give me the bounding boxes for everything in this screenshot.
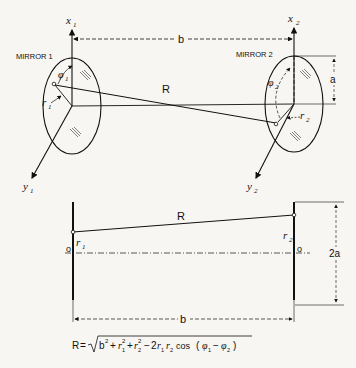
svg-text:2: 2 [296,19,300,27]
svg-text:b: b [178,33,184,45]
mirror-2: MIRROR 2 [236,50,323,152]
svg-text:2: 2 [170,347,173,353]
svg-text:y: y [22,180,28,192]
svg-text:x: x [287,12,293,24]
svg-text:1: 1 [30,187,34,195]
svg-text:r: r [76,236,81,248]
R-line-top: R [55,83,276,123]
spacing-b-top: b [74,33,292,45]
svg-text:o: o [66,244,71,254]
svg-text:2: 2 [306,116,310,124]
phi1-angle: φ 1 [58,66,72,84]
svg-text:y: y [246,180,252,192]
svg-text:R: R [162,83,170,95]
svg-text:1: 1 [208,347,211,353]
optical-axis [72,104,294,106]
radius-a-dimension: a [294,56,339,104]
svg-text:2: 2 [138,347,141,353]
svg-text:MIRROR 2: MIRROR 2 [236,50,273,59]
svg-text:MIRROR 1: MIRROR 1 [16,52,53,61]
svg-text:2: 2 [275,83,279,91]
svg-text:b: b [180,313,186,325]
svg-text:2: 2 [254,187,258,195]
phi2-angle: φ 2 [268,68,290,118]
y2-axis: y 2 [246,104,294,195]
svg-text:a: a [330,74,336,85]
svg-text:1: 1 [73,21,77,29]
r1-vector: r 1 [42,82,72,111]
svg-text:=: = [80,340,86,351]
svg-text:2: 2 [227,347,230,353]
svg-text:2a: 2a [329,248,341,259]
svg-text:R: R [72,340,79,351]
svg-text:2: 2 [289,236,293,244]
mirror-1: MIRROR 1 [16,52,101,154]
svg-text:): ) [233,340,236,351]
svg-text:r: r [42,96,47,108]
svg-text:−: − [213,340,219,351]
svg-text:r: r [283,229,288,241]
svg-text:−: − [144,340,150,351]
svg-text:+: + [110,340,116,351]
x2-axis: x 2 [287,12,300,104]
resonator-diagram: x 1 x 2 b MIRROR 1 [0,0,356,368]
svg-text:1: 1 [82,243,86,251]
y1-axis: y 1 [22,106,72,195]
figure-page: x 1 x 2 b MIRROR 1 [0,0,356,368]
x1-axis: x 1 [65,14,77,106]
side-view: o o R r 1 r 2 2a b [65,202,344,325]
svg-text:2: 2 [105,338,109,344]
formula-svg: R = b 2 + r 2 1 + r 2 2 − 2 r 1 r 2 cos … [72,333,272,355]
svg-text:x: x [65,14,71,26]
svg-text:o: o [297,244,302,254]
svg-text:(: ( [196,340,200,351]
svg-text:2: 2 [122,338,126,344]
svg-text:1: 1 [161,347,164,353]
svg-text:1: 1 [65,75,69,83]
svg-text:φ: φ [58,69,64,80]
svg-text:cos: cos [176,341,191,351]
svg-text:R: R [177,210,185,222]
svg-text:φ: φ [268,77,274,88]
svg-text:+: + [127,340,133,351]
svg-text:1: 1 [122,347,125,353]
svg-text:1: 1 [48,103,52,111]
svg-text:2: 2 [138,338,142,344]
svg-text:r: r [300,109,305,121]
